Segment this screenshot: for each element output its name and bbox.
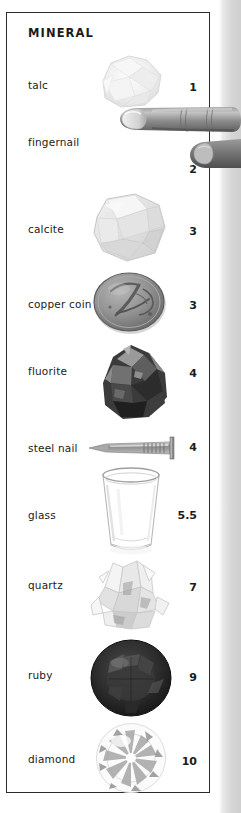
page-gutter xyxy=(219,0,241,813)
row-value: 1 xyxy=(189,81,197,94)
row-label: copper coin xyxy=(28,298,92,310)
table-row: fingernail 2 xyxy=(7,121,211,183)
row-value: 9 xyxy=(189,671,197,684)
row-label: glass xyxy=(28,509,56,521)
row-label: talc xyxy=(28,79,48,91)
calcite-specimen-icon xyxy=(83,191,175,265)
row-value: 3 xyxy=(189,225,197,238)
page-title: MINERAL xyxy=(28,26,94,40)
table-row: steel nail 4 xyxy=(7,431,211,467)
row-label: quartz xyxy=(28,579,63,591)
steel-nail-icon xyxy=(86,435,184,461)
row-value: 2 xyxy=(189,163,197,176)
row-label: diamond xyxy=(28,753,75,765)
mohs-hardness-table: MINERAL talc 1 fingernail 2 xyxy=(6,12,210,793)
drinking-glass-icon xyxy=(91,465,171,561)
row-value: 3 xyxy=(189,299,197,312)
ruby-gem-icon xyxy=(86,635,176,721)
row-value: 5.5 xyxy=(178,509,198,522)
row-label: steel nail xyxy=(28,442,78,454)
table-row: calcite 3 xyxy=(7,191,211,267)
table-row: fluorite 4 xyxy=(7,339,211,425)
row-value: 4 xyxy=(189,367,197,380)
row-value: 7 xyxy=(189,581,197,594)
row-label: fingernail xyxy=(28,136,79,148)
table-row: ruby 9 xyxy=(7,635,211,721)
table-row: glass 5.5 xyxy=(7,465,211,561)
row-label: fluorite xyxy=(28,365,67,377)
diamond-gem-icon xyxy=(87,719,175,797)
row-label: calcite xyxy=(28,223,64,235)
table-row: talc 1 xyxy=(7,51,211,113)
table-row: diamond xyxy=(7,719,211,797)
table-row: copper coin 3 xyxy=(7,269,211,337)
copper-coin-icon xyxy=(89,269,171,337)
talc-specimen-icon xyxy=(85,51,173,111)
quartz-specimen-icon xyxy=(83,553,179,635)
row-value: 4 xyxy=(189,441,197,454)
fluorite-specimen-icon xyxy=(87,339,179,427)
table-row: quartz xyxy=(7,553,211,633)
row-value: 10 xyxy=(182,755,197,768)
row-label: ruby xyxy=(28,669,53,681)
